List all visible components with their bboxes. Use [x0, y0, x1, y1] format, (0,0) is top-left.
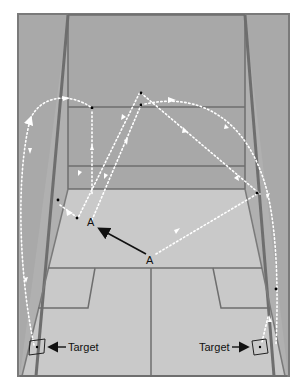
- label-target-right: Target: [199, 341, 230, 353]
- label-target-left: Target: [68, 341, 99, 353]
- label-a-far: A: [146, 254, 154, 266]
- label-a-near: A: [87, 216, 95, 228]
- squash-court-diagram: A A Target Target: [0, 0, 303, 387]
